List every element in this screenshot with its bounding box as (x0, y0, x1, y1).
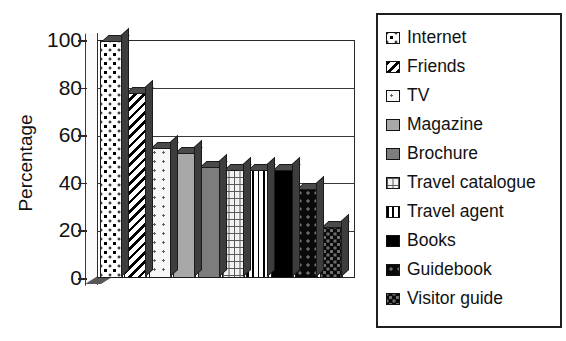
legend-swatch-brick-icon (386, 177, 400, 189)
bar-series (97, 0, 355, 341)
legend-swatch-diagonal-hatch-icon (386, 61, 400, 73)
legend-label: Travel catalogue (407, 174, 536, 192)
legend-item-guidebook[interactable]: Guidebook (386, 255, 560, 284)
y-tickmark-80 (78, 88, 87, 90)
legend-label: TV (407, 87, 429, 105)
y-tick-label-100: 100 (26, 29, 82, 50)
y-axis-ticks: 020406080100 (22, 0, 82, 341)
bar-side-face (243, 156, 251, 277)
y-tickmark-60 (78, 135, 87, 137)
legend-swatch-solid-gray-icon (386, 119, 400, 131)
y-tick-label-80: 80 (26, 77, 82, 98)
legend-item-travel-catalogue[interactable]: Travel catalogue (386, 168, 560, 197)
bar-side-face (121, 28, 129, 277)
bar-side-face (267, 156, 275, 277)
legend-item-visitor-guide[interactable]: Visitor guide (386, 284, 560, 313)
bar-internet (100, 40, 123, 278)
bar-side-face (145, 80, 153, 277)
y-tickmark-40 (78, 183, 87, 185)
bar-side-face (316, 175, 324, 277)
legend-label: Visitor guide (407, 290, 503, 308)
legend-item-internet[interactable]: Internet (386, 23, 560, 52)
legend-label: Travel agent (407, 203, 504, 221)
legend-item-brochure[interactable]: Brochure (386, 139, 560, 168)
legend-label: Guidebook (407, 261, 492, 279)
y-tick-label-0: 0 (26, 267, 82, 288)
bar-side-face (170, 135, 178, 277)
legend-item-tv[interactable]: TV (386, 81, 560, 110)
legend-swatch-solid-black-icon (386, 235, 400, 247)
legend-swatch-vertical-stripe-icon (386, 206, 400, 218)
y-tick-label-20: 20 (26, 219, 82, 240)
y-tick-label-60: 60 (26, 124, 82, 145)
legend-label: Internet (407, 29, 466, 47)
legend-swatch-dot-cross-icon (386, 32, 400, 44)
legend-swatch-black-dots-icon (386, 264, 400, 276)
legend-swatch-solid-dark-gray-icon (386, 148, 400, 160)
y-tickmark-0 (78, 278, 87, 280)
legend-item-travel-agent[interactable]: Travel agent (386, 197, 560, 226)
legend-item-magazine[interactable]: Magazine (386, 110, 560, 139)
bar-side-face (341, 213, 349, 277)
legend-label: Brochure (407, 145, 478, 163)
legend-label: Friends (407, 58, 465, 76)
bar-side-face (219, 154, 227, 277)
y-tickmark-20 (78, 230, 87, 232)
legend-label: Books (407, 232, 456, 250)
legend: InternetFriendsTVMagazineBrochureTravel … (376, 13, 562, 328)
bar-side-face (292, 156, 300, 277)
legend-item-books[interactable]: Books (386, 226, 560, 255)
legend-label: Magazine (407, 116, 483, 134)
bar-side-face (194, 140, 202, 277)
legend-swatch-black-checker-icon (386, 293, 400, 305)
y-tick-label-40: 40 (26, 172, 82, 193)
legend-swatch-sparse-dots-icon (386, 90, 400, 102)
y-tickmark-100 (78, 40, 87, 42)
bar-chart: Percentage 020406080100 InternetFriendsT… (0, 0, 566, 341)
legend-item-friends[interactable]: Friends (386, 52, 560, 81)
